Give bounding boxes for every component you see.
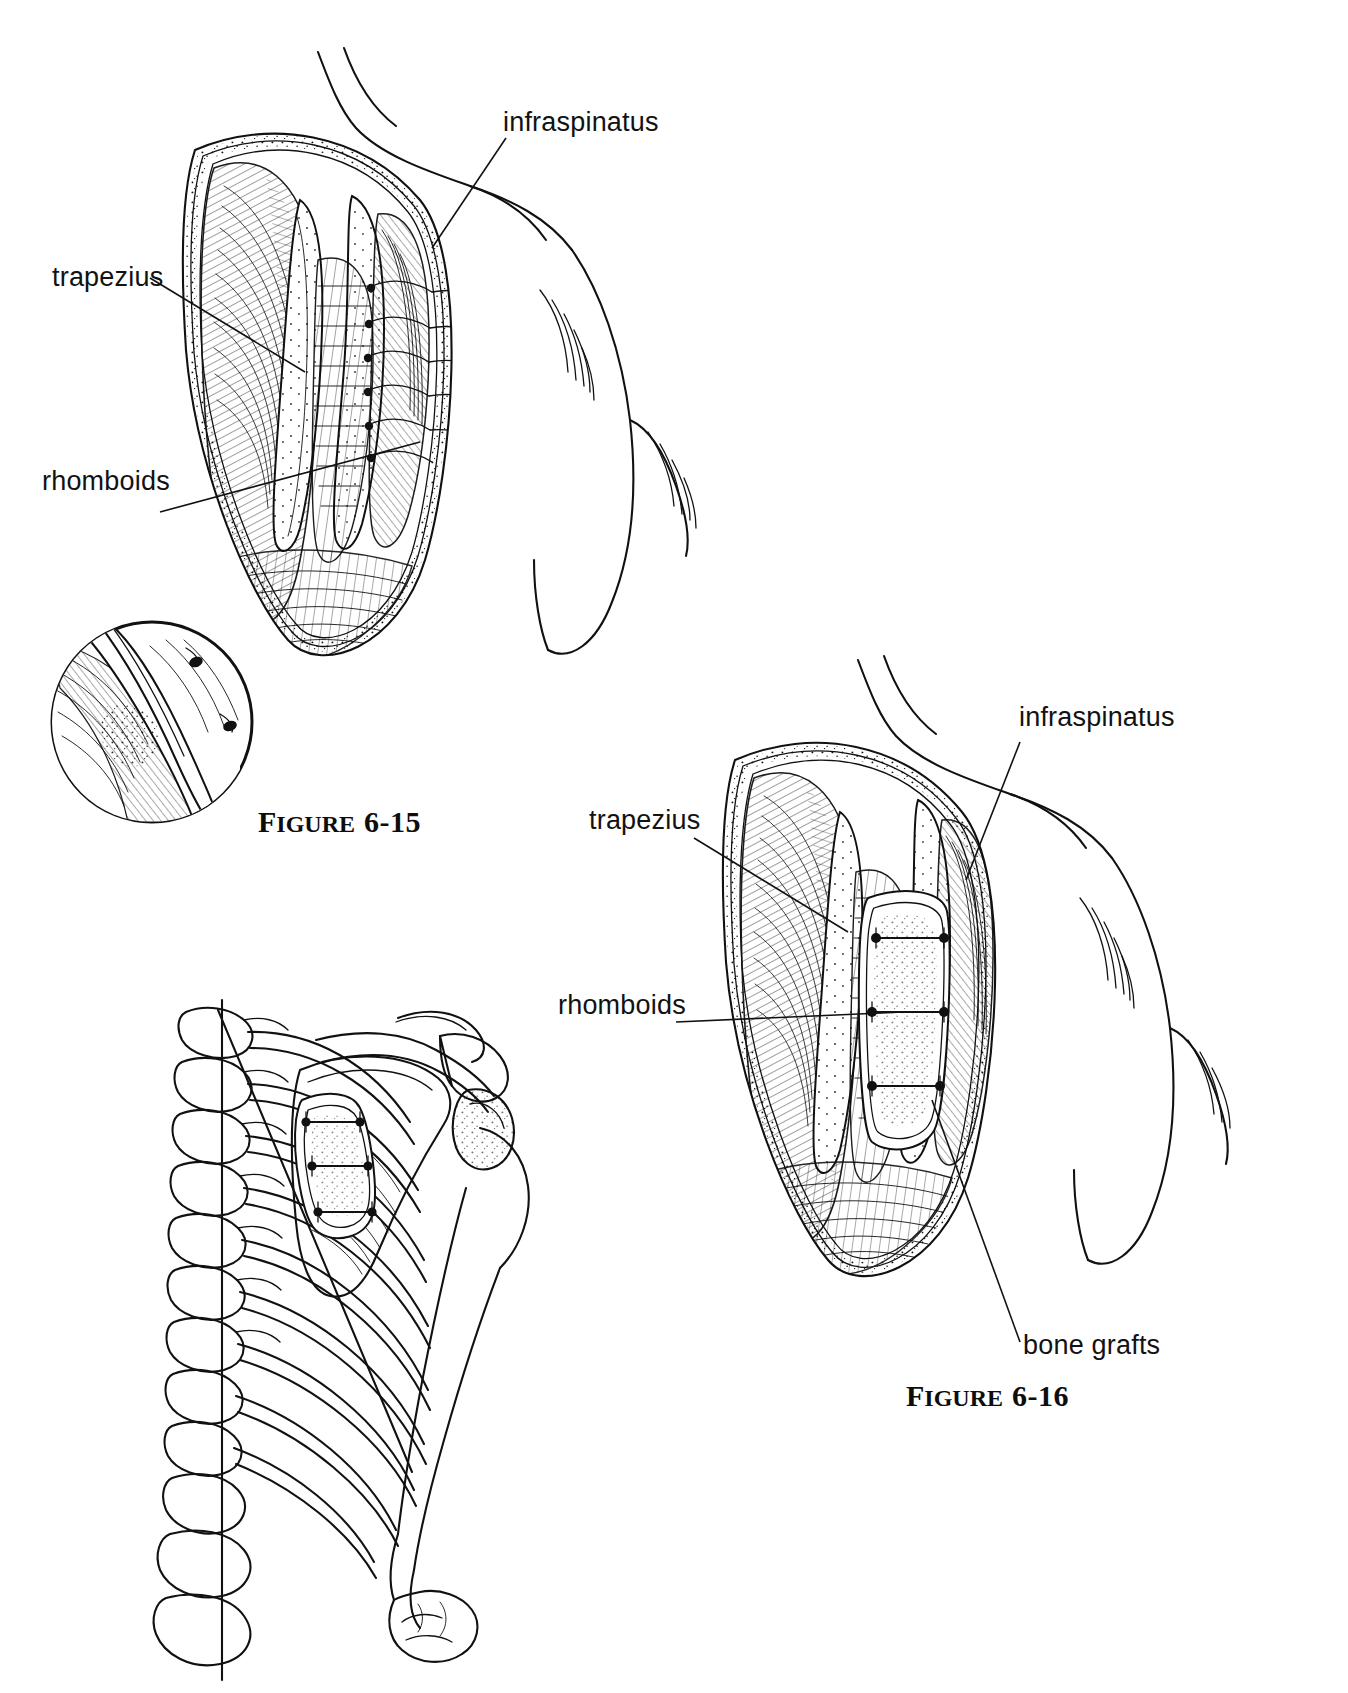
figure-6-15-inset-detail [52, 616, 252, 830]
caption-initial-fig-6-16: F [906, 1379, 924, 1412]
label-bone-grafts-fig-6-16: bone grafts [1023, 1330, 1160, 1361]
plate-artwork: .s{fill:none;stroke:#111;stroke-width:2.… [0, 0, 1348, 1693]
label-rhomboids-fig-6-15: rhomboids [42, 466, 170, 497]
skeleton-diagram [154, 1000, 529, 1680]
caption-figure-6-16: FIGURE6-16 [906, 1379, 1069, 1413]
caption-number-fig-6-16: 6-16 [1012, 1379, 1069, 1412]
figure-6-15-wound [183, 134, 500, 661]
caption-initial-fig-6-15: F [258, 805, 276, 838]
caption-word-fig-6-16: IGURE [924, 1385, 1003, 1411]
caption-word-fig-6-15: IGURE [276, 811, 355, 837]
caption-number-fig-6-15: 6-15 [364, 805, 421, 838]
illustration-page: .s{fill:none;stroke:#111;stroke-width:2.… [0, 0, 1348, 1693]
label-infraspinatus-fig-6-15: infraspinatus [503, 107, 659, 138]
label-trapezius-fig-6-16: trapezius [589, 805, 700, 836]
label-trapezius-fig-6-15: trapezius [52, 262, 163, 293]
caption-figure-6-15: FIGURE6-15 [258, 805, 421, 839]
label-rhomboids-fig-6-16: rhomboids [558, 990, 686, 1021]
bone-graft-strut [295, 1094, 376, 1238]
label-infraspinatus-fig-6-16: infraspinatus [1019, 702, 1175, 733]
figure-6-16-wound [723, 743, 995, 1276]
